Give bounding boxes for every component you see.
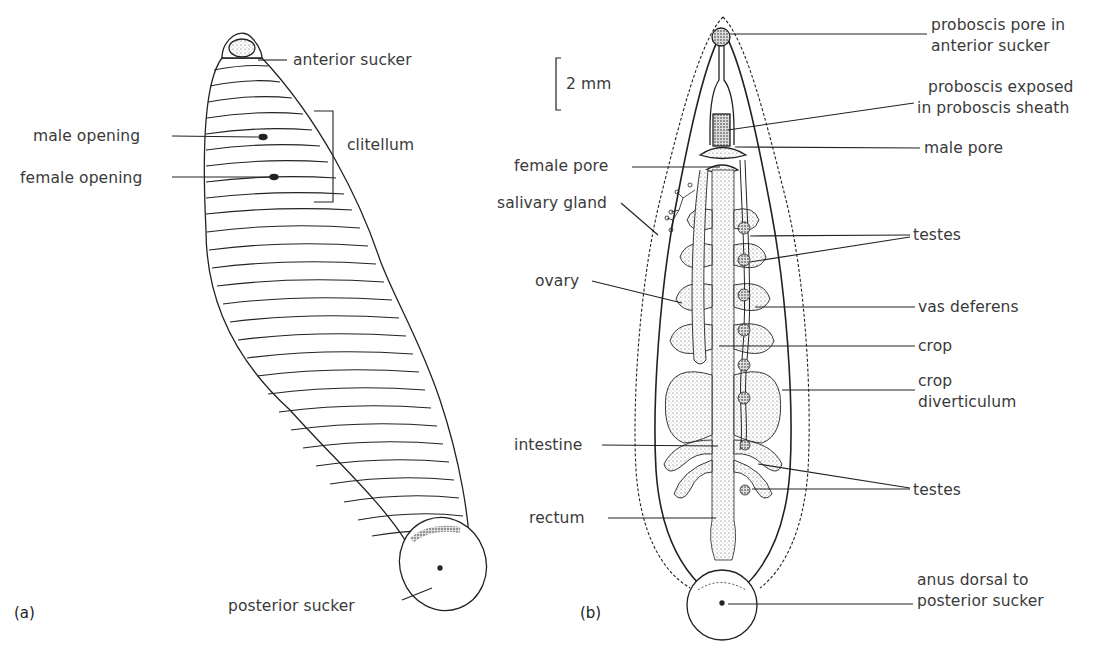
label-crop-diverticulum-line1: crop [918, 372, 952, 390]
label-anus-line1: anus dorsal to [917, 571, 1029, 589]
label-testes-lower: testes [913, 481, 961, 499]
label-intestine: intestine [514, 436, 582, 454]
label-female-pore: female pore [514, 157, 608, 175]
label-proboscis-pore-line2: anterior sucker [931, 37, 1050, 55]
label-proboscis-pore-line1: proboscis pore in [931, 16, 1065, 34]
label-proboscis-exposed-line2: in proboscis sheath [917, 99, 1069, 117]
scale-bar-label: 2 mm [566, 75, 611, 93]
label-male-opening: male opening [33, 127, 140, 145]
label-salivary-gland: salivary gland [497, 194, 607, 212]
label-male-pore: male pore [924, 139, 1003, 157]
label-crop: crop [918, 337, 952, 355]
label-proboscis-exposed-line1: proboscis exposed [928, 78, 1074, 96]
label-testes-upper: testes [913, 226, 961, 244]
scale-bar [556, 58, 561, 110]
panel-b-tag: (b) [580, 604, 601, 622]
label-rectum: rectum [529, 509, 585, 527]
label-anterior-sucker: anterior sucker [293, 51, 412, 69]
label-ovary: ovary [535, 272, 579, 290]
panel-b-leader-lines [592, 34, 927, 604]
label-anus-line2: posterior sucker [917, 592, 1044, 610]
label-crop-diverticulum-line2: diverticulum [918, 393, 1016, 411]
label-posterior-sucker: posterior sucker [228, 597, 355, 615]
label-vas-deferens: vas deferens [918, 298, 1019, 316]
panel-a-leech-body [204, 33, 499, 623]
label-clitellum: clitellum [347, 136, 414, 154]
label-female-opening: female opening [20, 169, 142, 187]
leech-diagram-artwork [0, 0, 1113, 646]
panel-b-leech-body [635, 17, 809, 640]
panel-a-tag: (a) [14, 604, 35, 622]
